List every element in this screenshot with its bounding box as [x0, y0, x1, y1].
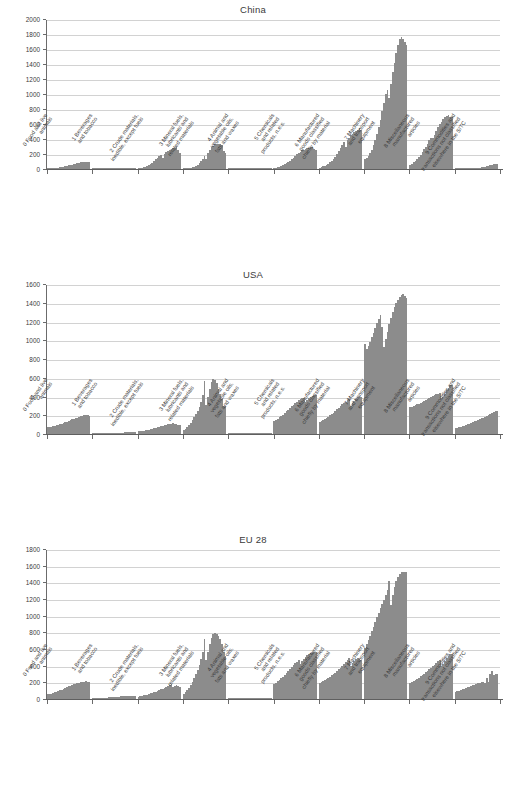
bar: [315, 150, 317, 169]
bar: [225, 153, 227, 169]
bar-group: [455, 20, 500, 169]
x-axis-labels-usa: 0 Food and live animals1 Beverages and t…: [47, 438, 500, 543]
y-tick-label: 1200: [26, 320, 40, 326]
bar-group: [455, 285, 500, 434]
bar: [496, 411, 498, 434]
x-axis-labels-china: 0 Food and live animals1 Beverages and t…: [47, 173, 500, 278]
figure-page: China 0200400600800100012001400160018002…: [0, 0, 506, 801]
x-tick-mark: [500, 700, 501, 704]
bar: [179, 687, 181, 700]
y-tick-label: 600: [29, 376, 40, 382]
bar: [89, 416, 91, 434]
y-tick-label: 1200: [26, 77, 40, 83]
x-tick-mark: [500, 435, 501, 439]
x-axis-labels-eu28: 0 Food and live animals1 Beverages and t…: [47, 703, 500, 801]
y-tick-label: 800: [29, 357, 40, 363]
y-tick-label: 1600: [26, 282, 40, 288]
y-tick-label: 1800: [26, 547, 40, 553]
chart-title-usa: USA: [0, 269, 506, 280]
y-tick-label: 1400: [26, 301, 40, 307]
y-tick-label: 1800: [26, 32, 40, 38]
y-tick-label: 1000: [26, 614, 40, 620]
chart-title-eu28: EU 28: [0, 534, 506, 545]
y-tick-label: 800: [29, 630, 40, 636]
bar: [89, 682, 91, 699]
bar: [406, 572, 408, 699]
y-tick-label: 1000: [26, 92, 40, 98]
x-tick-mark: [500, 170, 501, 174]
y-tick-label: 0: [36, 167, 40, 173]
y-tick-label: 1400: [26, 580, 40, 586]
y-tick-label: 200: [29, 152, 40, 158]
chart-panel-eu28: EU 28 020040060080010001200140016001800 …: [0, 530, 506, 801]
chart-panel-usa: USA 02004006008001000120014001600 0 Food…: [0, 265, 506, 530]
y-tick-label: 1600: [26, 564, 40, 570]
bar: [179, 425, 181, 434]
chart-panel-china: China 0200400600800100012001400160018002…: [0, 0, 506, 265]
plot-area-usa: 02004006008001000120014001600 0 Food and…: [0, 285, 506, 435]
y-tick-label: 0: [36, 697, 40, 703]
bar: [406, 298, 408, 434]
bar: [496, 674, 498, 699]
plot-area-china: 0200400600800100012001400160018002000 0 …: [0, 20, 506, 170]
y-tick-label: 1200: [26, 597, 40, 603]
bar-group: [455, 550, 500, 699]
y-tick-label: 2000: [26, 17, 40, 23]
y-tick-label: 1000: [26, 338, 40, 344]
bar: [406, 45, 408, 170]
y-tick-label: 800: [29, 107, 40, 113]
chart-title-china: China: [0, 4, 506, 15]
bar: [225, 406, 227, 434]
bar: [179, 153, 181, 169]
y-tick-label: 1400: [26, 62, 40, 68]
y-tick-label: 0: [36, 432, 40, 438]
bar: [89, 162, 91, 169]
plot-area-eu28: 020040060080010001200140016001800 0 Food…: [0, 550, 506, 700]
y-tick-label: 1600: [26, 47, 40, 53]
